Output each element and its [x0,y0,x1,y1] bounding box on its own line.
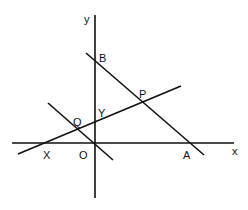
y-axis-label: y [84,13,90,25]
point-q-label: Q [73,116,82,128]
point-a-label: A [183,149,191,161]
x-axis-label: x [232,145,238,157]
point-b-label: B [99,52,106,64]
point-y-label: Y [98,107,106,119]
point-o-label: O [79,149,88,161]
line-ab [86,53,204,155]
geometry-diagram: y x B P Y Q X O A [0,0,248,210]
point-p-label: P [139,88,146,100]
point-x-label: X [43,149,51,161]
